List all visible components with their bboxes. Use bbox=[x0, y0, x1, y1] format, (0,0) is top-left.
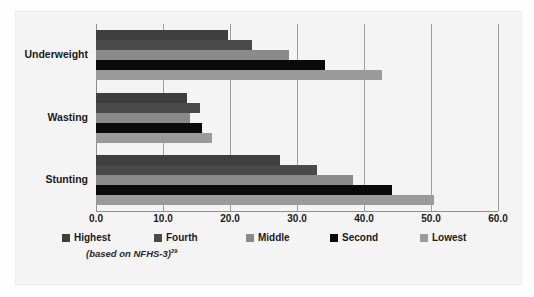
bar-stunting-fourth bbox=[96, 165, 317, 175]
source-note-superscript: 29 bbox=[171, 248, 178, 254]
legend-item-second[interactable]: Second bbox=[330, 232, 378, 243]
x-tick-label-50-0: 50.0 bbox=[411, 213, 451, 224]
bar-stunting-highest bbox=[96, 155, 280, 165]
legend-swatch-highest bbox=[62, 234, 70, 242]
bar-wasting-highest bbox=[96, 93, 187, 103]
legend-swatch-second bbox=[330, 234, 338, 242]
plot-area bbox=[96, 24, 498, 211]
x-tick-label-0-0: 0.0 bbox=[76, 213, 116, 224]
category-label-underweight: Underweight bbox=[4, 48, 88, 60]
bar-underweight-middle bbox=[96, 50, 289, 60]
legend-swatch-fourth bbox=[154, 234, 162, 242]
bar-chart-figure: UnderweightWastingStunting 0.010.020.030… bbox=[0, 0, 534, 297]
bar-stunting-middle bbox=[96, 175, 353, 185]
x-tick-label-30-0: 30.0 bbox=[277, 213, 317, 224]
legend-item-highest[interactable]: Highest bbox=[62, 232, 111, 243]
legend-item-middle[interactable]: Middle bbox=[246, 232, 290, 243]
legend-swatch-lowest bbox=[420, 234, 428, 242]
legend-label-fourth: Fourth bbox=[166, 232, 198, 243]
bar-wasting-second bbox=[96, 123, 202, 133]
legend-label-second: Second bbox=[342, 232, 378, 243]
gridline-60-0 bbox=[498, 24, 499, 211]
bar-underweight-second bbox=[96, 60, 325, 70]
x-tick-label-10-0: 10.0 bbox=[143, 213, 183, 224]
source-note-text: (based on NFHS-3) bbox=[86, 248, 171, 259]
bar-wasting-lowest bbox=[96, 133, 212, 143]
chart-legend: HighestFourthMiddleSecondLowest bbox=[62, 232, 482, 248]
bar-wasting-fourth bbox=[96, 103, 200, 113]
legend-item-fourth[interactable]: Fourth bbox=[154, 232, 198, 243]
x-tick-label-60-0: 60.0 bbox=[478, 213, 518, 224]
x-tick-label-20-0: 20.0 bbox=[210, 213, 250, 224]
legend-swatch-middle bbox=[246, 234, 254, 242]
bar-group bbox=[96, 155, 498, 205]
legend-label-middle: Middle bbox=[258, 232, 290, 243]
x-axis-line bbox=[96, 211, 498, 212]
category-label-wasting: Wasting bbox=[4, 111, 88, 123]
category-label-stunting: Stunting bbox=[4, 173, 88, 185]
bar-underweight-fourth bbox=[96, 40, 252, 50]
legend-label-lowest: Lowest bbox=[432, 232, 466, 243]
legend-label-highest: Highest bbox=[74, 232, 111, 243]
x-tick-label-40-0: 40.0 bbox=[344, 213, 384, 224]
bar-wasting-middle bbox=[96, 113, 190, 123]
bar-underweight-highest bbox=[96, 30, 228, 40]
source-note: (based on NFHS-3)29 bbox=[86, 248, 178, 259]
bar-stunting-second bbox=[96, 185, 392, 195]
bar-group bbox=[96, 30, 498, 80]
bar-group bbox=[96, 93, 498, 143]
bar-underweight-lowest bbox=[96, 70, 382, 80]
legend-item-lowest[interactable]: Lowest bbox=[420, 232, 466, 243]
bar-stunting-lowest bbox=[96, 195, 434, 205]
